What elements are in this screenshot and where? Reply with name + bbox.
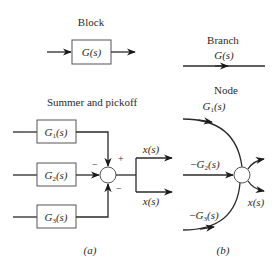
summer-pickoff-element: Summer and pickoff G1(s) G2(s) G3(s) + −… <box>13 96 172 228</box>
node-output-label: x(s) <box>247 196 265 209</box>
node-input-g3-path <box>183 183 240 230</box>
block-diagram-figure: Block G(s) Branch G(s) Summer and pickof… <box>0 0 280 270</box>
caption-a: (a) <box>84 244 97 257</box>
node-circle <box>234 167 250 183</box>
node-input-g2-label: −G2(s) <box>190 158 220 172</box>
g1-label: G1(s) <box>44 126 67 140</box>
summing-junction <box>100 167 116 183</box>
branch-element: Branch G(s) <box>183 34 265 66</box>
g3-label: G3(s) <box>44 211 67 225</box>
g2-label: G2(s) <box>44 169 67 183</box>
node-output-lower-arrow <box>248 181 264 191</box>
node-input-g1-label: G1(s) <box>202 100 225 114</box>
node-input-g3-label: −G3(s) <box>189 209 219 223</box>
branch-title: Branch <box>207 34 239 46</box>
sign-plus-top: + <box>118 153 124 164</box>
sign-minus-left: − <box>92 159 98 170</box>
block-title: Block <box>78 16 105 28</box>
sign-minus-bottom: − <box>116 183 122 194</box>
block-transfer-label: G(s) <box>82 46 102 59</box>
caption-b: (b) <box>217 244 230 257</box>
pickoff-upper-label: x(s) <box>142 143 160 156</box>
node-output-upper-arrow <box>248 159 264 169</box>
branch-transfer-label: G(s) <box>214 49 234 62</box>
summer-title: Summer and pickoff <box>47 96 138 108</box>
block-element: Block G(s) <box>47 16 135 64</box>
g3-to-summer-arrow <box>76 184 108 217</box>
node-title: Node <box>214 84 238 96</box>
pickoff-lower-label: x(s) <box>142 195 160 208</box>
node-element: Node G1(s) −G2(s) −G3(s) x(s) <box>183 84 265 230</box>
